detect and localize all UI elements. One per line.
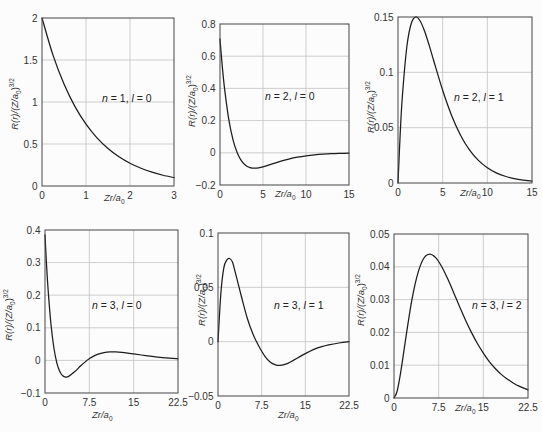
x-axis-label-main: Zr/a [459,187,477,198]
y-axis-label-superscript: 3/2 [8,78,15,87]
y-axis-label-superscript: 3/2 [354,274,361,283]
annotation-l-value: 0 [146,92,152,104]
y-tick-label: 0.4 [202,83,216,94]
x-tick-label: 15 [128,397,140,408]
annotation-equals: = [306,299,318,311]
y-tick-label: 0.3 [27,257,41,268]
x-axis-label-main: Zr/a [274,188,292,199]
x-tick-label: 10 [300,189,312,200]
y-tick-label: 2 [32,13,38,24]
x-tick-label: 10 [482,187,494,198]
y-tick-label: 0.04 [370,261,390,272]
y-tick-label: 0.1 [200,228,214,239]
x-tick-label: 5 [260,189,266,200]
y-tick-label: 1.5 [24,55,38,66]
x-axis-label-subscript: 0 [295,415,299,422]
x-tick-label: 0 [395,187,401,198]
y-axis-label-superscript: 3/2 [2,289,9,298]
y-axis-label-main: R(r)/(Z/a [196,290,207,326]
radial-wavefunction-figure: 012300.511.52Zr/a0R(r)/(Z/a0)3/2n = 1, l… [0,0,542,432]
x-tick-label: 22.5 [339,400,359,411]
y-axis-label-main: R(r)/(Z/a [9,94,20,130]
x-tick-label: 7.5 [255,400,269,411]
panel-annotation: n = 1, l = 0 [102,92,152,104]
y-tick-label: 0 [32,181,38,192]
y-tick-label: 0 [384,393,390,404]
y-tick-label: 0.05 [370,229,390,240]
x-axis-label-subscript: 0 [477,193,481,200]
y-tick-label: −0.2 [196,180,216,191]
y-tick-label: 1 [32,97,38,108]
panel-annotation: n = 3, l = 1 [274,299,324,311]
y-tick-label: 0.4 [27,225,41,236]
x-tick-label: 15 [478,402,490,413]
x-tick-label: 2 [127,190,133,201]
y-axis-label-main: R(r)/(Z/a [365,97,376,133]
y-tick-label: −0.1 [21,388,41,399]
panel-annotation: n = 3, l = 2 [472,299,522,311]
y-axis-label-superscript: 3/2 [185,75,192,84]
annotation-l-value: 1 [318,299,324,311]
y-tick-label: 0.1 [380,67,394,78]
x-tick-label: 3 [171,190,177,201]
x-axis-label-main: Zr/a [454,402,472,413]
annotation-equals: = [124,299,136,311]
y-axis-label-main: R(r)/(Z/a [186,91,197,127]
y-tick-label: 0 [210,147,216,158]
y-tick-label: 0.03 [370,294,390,305]
annotation-equals: = [504,299,516,311]
x-tick-label: 22.5 [518,402,538,413]
panel-annotation: n = 2, l = 1 [454,91,504,103]
y-tick-label: 0.1 [27,322,41,333]
x-tick-label: 1 [83,190,89,201]
y-axis-label-main: R(r)/(Z/a [3,305,14,341]
annotation-equals: = [486,91,498,103]
x-axis-label-subscript: 0 [121,198,125,205]
x-tick-label: 0 [391,402,397,413]
x-tick-label: 15 [526,187,538,198]
y-tick-label: 0.02 [370,327,390,338]
x-axis-label-main: Zr/a [91,409,109,420]
annotation-equals: = [98,299,110,311]
panel-annotation: n = 2, l = 0 [265,90,315,102]
annotation-l-value: 0 [136,299,142,311]
x-tick-label: 22.5 [168,397,188,408]
x-tick-label: 0 [215,400,221,411]
annotation-equals: = [108,92,120,104]
annotation-equals: = [280,299,292,311]
figure-background [0,0,542,432]
annotation-equals: = [297,90,309,102]
annotation-l-value: 2 [516,299,522,311]
y-tick-label: −0.05 [188,391,214,402]
y-tick-label: 0.15 [374,12,394,23]
x-axis-label-main: Zr/a [277,409,295,420]
x-tick-label: 15 [343,189,355,200]
y-axis-label-main: R(r)/(Z/a [355,290,366,326]
y-tick-label: 0.2 [202,115,216,126]
x-tick-label: 5 [440,187,446,198]
y-tick-label: 0.5 [24,139,38,150]
y-tick-label: 0.6 [202,51,216,62]
y-tick-label: 0.01 [370,360,390,371]
annotation-equals: = [478,299,490,311]
x-axis-label-subscript: 0 [472,408,476,415]
annotation-equals: = [134,92,146,104]
annotation-equals: = [271,90,283,102]
y-tick-label: 0.05 [374,122,394,133]
x-tick-label: 7.5 [432,402,446,413]
x-axis-label-subscript: 0 [292,194,296,201]
x-tick-label: 0 [39,190,45,201]
annotation-equals: = [460,91,472,103]
annotation-l-value: 0 [309,90,315,102]
x-tick-label: 0 [217,189,223,200]
y-tick-label: 0.2 [27,290,41,301]
x-tick-label: 15 [300,400,312,411]
y-tick-label: 0 [388,178,394,189]
y-tick-label: 0 [35,355,41,366]
y-axis-label-superscript: 3/2 [364,81,371,90]
y-axis-label-superscript: 3/2 [195,274,202,283]
panel-annotation: n = 3, l = 0 [92,299,142,311]
x-axis-label-main: Zr/a [103,192,121,203]
y-tick-label: 0.8 [202,19,216,30]
annotation-l-value: 1 [498,91,504,103]
